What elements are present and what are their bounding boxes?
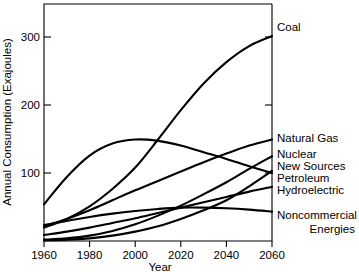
x-tick-label-2060: 2060 [259,249,285,261]
y-axis-title: Annual Consumption (Exajoules) [1,38,13,206]
y-tick-label-200: 200 [21,99,40,111]
series-label-nuclear: Nuclear [277,148,317,160]
series-label-natural-gas: Natural Gas [277,132,339,144]
y-tick-label-100: 100 [21,167,40,179]
energy-consumption-line-chart: 300 200 100 1960 1980 2000 2020 2040 206… [0,0,359,272]
series-label-hydroelectric: Hydroelectric [277,184,344,196]
series-label-noncommercial-energies-line2: Energies [310,223,356,235]
x-axis-ticks [44,241,272,247]
series-label-coal: Coal [277,21,301,33]
x-tick-label-2000: 2000 [122,249,148,261]
series-curve-hydroelectric [44,187,272,235]
x-axis-title: Year [148,261,171,272]
x-tick-label-2040: 2040 [214,249,240,261]
plot-frame [44,4,272,241]
series-layer [44,36,272,240]
y-tick-label-300: 300 [21,31,40,43]
y-axis-ticks [44,37,272,173]
x-tick-label-2020: 2020 [168,249,194,261]
chart-screenshot: 300 200 100 1960 1980 2000 2020 2040 206… [0,0,359,272]
series-label-petroleum: Petroleum [277,172,329,184]
series-label-new-sources: New Sources [277,160,346,172]
x-tick-label-1960: 1960 [31,249,57,261]
series-label-noncommercial-energies-line1: Noncommercial [277,209,357,221]
x-tick-label-1980: 1980 [77,249,103,261]
series-curve-coal [44,36,272,228]
